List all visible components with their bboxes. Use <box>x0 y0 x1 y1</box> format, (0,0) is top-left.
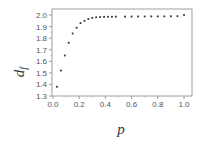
data-point <box>124 16 126 18</box>
data-point <box>64 55 66 57</box>
data-point <box>183 14 185 16</box>
data-point <box>72 33 74 35</box>
y-tick-label: 1.3 <box>36 92 48 101</box>
y-tick-label: 1.5 <box>36 69 48 78</box>
y-axis-ticks: 1.31.41.51.61.71.81.92.0 <box>36 11 52 101</box>
x-axis-label: p <box>116 121 125 137</box>
y-tick-label: 1.8 <box>36 34 48 43</box>
x-tick-label: 0.6 <box>126 100 138 109</box>
plot-frame <box>52 9 192 96</box>
data-point <box>91 17 93 19</box>
data-point <box>144 16 146 18</box>
data-point <box>99 16 101 18</box>
data-points <box>56 14 185 88</box>
data-point <box>107 16 109 18</box>
x-axis-ticks: 0.00.20.40.60.81.0 <box>47 96 190 109</box>
y-tick-label: 2.0 <box>36 11 48 20</box>
data-point <box>80 22 82 24</box>
data-point <box>60 70 62 72</box>
x-tick-label: 0.0 <box>47 100 59 109</box>
x-tick-label: 0.4 <box>100 100 112 109</box>
y-tick-label: 1.4 <box>36 80 48 89</box>
data-point <box>115 16 117 18</box>
data-point <box>95 16 97 18</box>
data-point <box>163 15 165 17</box>
data-point <box>170 15 172 17</box>
data-point <box>103 16 105 18</box>
data-point <box>87 18 89 20</box>
data-point <box>131 16 133 18</box>
data-point <box>56 86 58 88</box>
data-point <box>137 16 139 18</box>
scatter-chart: 1.31.41.51.61.71.81.92.0 0.00.20.40.60.8… <box>0 0 204 146</box>
y-tick-label: 1.9 <box>36 23 48 32</box>
data-point <box>150 15 152 17</box>
x-tick-label: 0.8 <box>152 100 164 109</box>
x-tick-label: 1.0 <box>178 100 190 109</box>
y-axis-label: df <box>11 66 29 78</box>
y-tick-label: 1.7 <box>36 46 48 55</box>
data-point <box>157 15 159 17</box>
data-point <box>177 15 179 17</box>
data-point <box>68 42 70 44</box>
data-point <box>84 20 86 22</box>
x-tick-label: 0.2 <box>74 100 86 109</box>
data-point <box>76 27 78 29</box>
y-tick-label: 1.6 <box>36 57 48 66</box>
data-point <box>111 16 113 18</box>
